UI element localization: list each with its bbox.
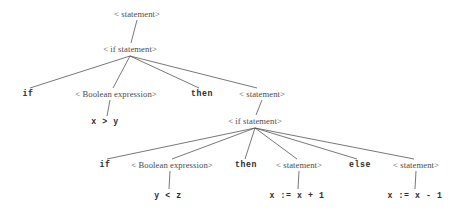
- tree-edge-n7-n12: [255, 128, 357, 159]
- tree-edge-n7-n10: [245, 128, 255, 159]
- tree-node-terminal-n8: if: [99, 161, 110, 169]
- tree-edge-n7-n11: [255, 128, 297, 159]
- tree-node-nonterminal-n0: < statement>: [114, 10, 160, 19]
- tree-edge-n1-n2: [30, 56, 130, 88]
- tree-node-nonterminal-n11: < statement>: [276, 161, 322, 170]
- tree-edge-n1-n5: [130, 56, 257, 88]
- tree-node-terminal-n6: x > y: [91, 118, 119, 126]
- tree-node-terminal-n14: y < z: [154, 192, 182, 200]
- tree-node-terminal-n12: else: [349, 161, 371, 169]
- tree-edge-n7-n8: [107, 128, 255, 159]
- tree-edges-layer: [0, 0, 462, 211]
- tree-edge-n1-n4: [130, 56, 199, 88]
- tree-edge-n1-n3: [113, 56, 130, 88]
- tree-edge-n5-n7: [256, 100, 262, 115]
- tree-node-nonterminal-n7: < if statement>: [228, 117, 282, 126]
- parse-tree-diagram: < statement>< if statement>if< Boolean e…: [0, 0, 462, 211]
- tree-edge-n11-n15: [298, 171, 299, 189]
- tree-edge-n7-n9: [172, 128, 255, 159]
- tree-node-terminal-n4: then: [191, 90, 213, 98]
- tree-edge-n3-n6: [107, 100, 110, 116]
- tree-node-terminal-n15: x := x + 1: [269, 192, 324, 200]
- tree-node-nonterminal-n1: < if statement>: [103, 45, 157, 54]
- tree-node-nonterminal-n5: < statement>: [239, 90, 285, 99]
- tree-edge-n9-n14: [169, 171, 170, 189]
- tree-edge-n7-n13: [255, 128, 414, 159]
- tree-node-terminal-n16: x := x - 1: [387, 192, 442, 200]
- tree-node-terminal-n10: then: [235, 161, 257, 169]
- tree-node-nonterminal-n13: < statement>: [393, 161, 439, 170]
- tree-edge-n13-n16: [415, 171, 416, 189]
- tree-node-nonterminal-n9: < Boolean expression>: [131, 161, 212, 170]
- tree-edge-n0-n1: [131, 20, 137, 43]
- tree-node-terminal-n2: if: [22, 90, 33, 98]
- tree-node-nonterminal-n3: < Boolean expression>: [75, 90, 156, 99]
